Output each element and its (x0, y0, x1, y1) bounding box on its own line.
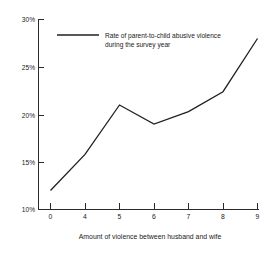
chart-canvas: 30% 25% 20% 15% 10% 0 4 5 6 7 8 9 (0, 0, 270, 253)
legend-label-line-1: Rate of parent-to-child abusive violence (105, 32, 221, 40)
x-tick-label-4: 4 (83, 213, 87, 220)
x-tick-label-5: 5 (118, 213, 122, 220)
y-tick-label-10: 10% (22, 206, 35, 213)
y-tick-label-20: 20% (22, 112, 35, 119)
x-tick-marks (51, 203, 258, 210)
x-tick-label-8: 8 (221, 213, 225, 220)
x-tick-label-6: 6 (152, 213, 156, 220)
y-tick-label-15: 15% (22, 159, 35, 166)
y-tick-label-25: 25% (22, 64, 35, 71)
y-tick-marks (39, 20, 45, 210)
x-tick-labels: 0 4 5 6 7 8 9 (49, 213, 260, 220)
x-tick-label-0: 0 (49, 213, 53, 220)
y-tick-label-30: 30% (22, 16, 35, 23)
legend: Rate of parent-to-child abusive violence… (57, 32, 221, 49)
legend-label-line-2: during the survey year (105, 41, 171, 49)
x-axis-title: Amount of violence between husband and w… (79, 233, 222, 240)
line-chart: 30% 25% 20% 15% 10% 0 4 5 6 7 8 9 (0, 0, 270, 253)
x-tick-label-9: 9 (256, 213, 260, 220)
y-tick-labels: 30% 25% 20% 15% 10% (22, 16, 35, 213)
x-tick-label-7: 7 (187, 213, 191, 220)
data-series-line (51, 39, 258, 191)
